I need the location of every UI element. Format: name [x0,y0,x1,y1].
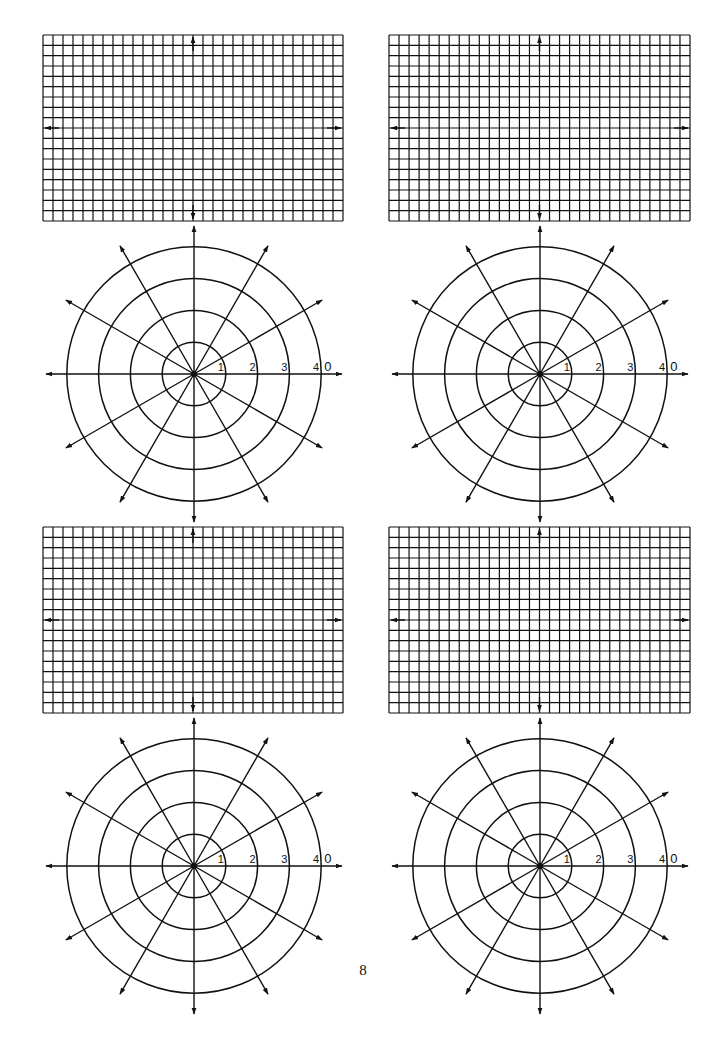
polar-ray-arrow-icon [120,246,194,374]
polar-ray-arrow-icon [194,374,268,502]
polar-ray-arrow-icon [194,792,322,866]
polar-ray-arrow-icon [194,738,268,866]
origin-dot [537,371,543,377]
zero-angle-label: 0 [324,359,331,374]
polar-ray-arrow-icon [194,866,322,940]
ring-label: 3 [281,853,287,865]
polar-ray-arrow-icon [66,792,194,866]
grid-top-left [43,35,343,221]
grid-bottom-left [43,527,343,713]
polar-ray-arrow-icon [540,246,614,374]
polar-ray-arrow-icon [412,866,540,940]
polar-ray-arrow-icon [540,792,668,866]
polar-ray-arrow-icon [466,866,540,994]
ring-label: 3 [627,853,633,865]
ring-label: 1 [564,853,570,865]
ring-label: 1 [218,853,224,865]
grid-top-right [389,35,690,221]
ring-label: 4 [659,853,665,865]
grid-bottom-right [389,527,690,713]
polar-ray-arrow-icon [66,374,194,448]
zero-angle-label: 0 [324,851,331,866]
polar-ray-arrow-icon [540,374,668,448]
ring-label: 4 [313,361,319,373]
polar-top-right: 12340 [392,226,688,522]
polar-ray-arrow-icon [540,866,614,994]
ring-label: 2 [249,361,255,373]
origin-dot [191,371,197,377]
ring-label: 3 [627,361,633,373]
polar-ray-arrow-icon [120,374,194,502]
ring-label: 4 [313,853,319,865]
polar-ray-arrow-icon [194,866,268,994]
ring-label: 1 [218,361,224,373]
polar-ray-arrow-icon [540,738,614,866]
ring-label: 2 [249,853,255,865]
polar-bottom-left: 12340 [46,718,342,1014]
polar-top-left: 12340 [46,226,342,522]
polar-ray-arrow-icon [540,300,668,374]
polar-ray-arrow-icon [66,300,194,374]
origin-dot [537,863,543,869]
ring-label: 2 [595,361,601,373]
polar-ray-arrow-icon [120,866,194,994]
polar-ray-arrow-icon [412,792,540,866]
polar-ray-arrow-icon [194,246,268,374]
ring-label: 1 [564,361,570,373]
zero-angle-label: 0 [670,359,677,374]
polar-ray-arrow-icon [466,738,540,866]
origin-dot [191,863,197,869]
polar-ray-arrow-icon [412,300,540,374]
ring-label: 3 [281,361,287,373]
polar-ray-arrow-icon [540,374,614,502]
ring-label: 4 [659,361,665,373]
polar-ray-arrow-icon [540,866,668,940]
polar-ray-arrow-icon [120,738,194,866]
polar-ray-arrow-icon [466,246,540,374]
polar-ray-arrow-icon [466,374,540,502]
ring-label: 2 [595,853,601,865]
polar-bottom-right: 12340 [392,718,688,1014]
graph-canvas: 12340123401234012340 [0,0,722,1050]
polar-ray-arrow-icon [412,374,540,448]
polar-ray-arrow-icon [194,374,322,448]
page-number: 8 [359,962,367,979]
polar-ray-arrow-icon [66,866,194,940]
zero-angle-label: 0 [670,851,677,866]
polar-ray-arrow-icon [194,300,322,374]
graph-paper-page: 12340123401234012340 8 [0,0,722,1050]
